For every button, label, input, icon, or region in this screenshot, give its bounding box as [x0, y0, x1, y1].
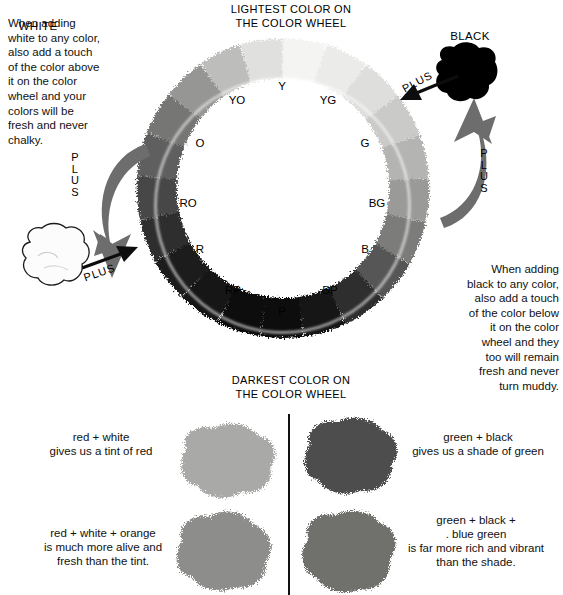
- hue-label-bg: BG: [369, 197, 386, 209]
- wheel-ring-wedges: [157, 59, 410, 318]
- hue-label-r: R: [196, 243, 204, 255]
- swatch-tint-red: [170, 418, 282, 504]
- caption-tint-red: red + white gives us a tint of red: [26, 430, 176, 458]
- hue-label-b: B: [361, 243, 369, 255]
- hue-label-rp: RP: [225, 284, 241, 296]
- black-mixing-note: When adding black to any color, also add…: [447, 262, 559, 393]
- swatch-shade-green: [296, 414, 406, 504]
- plus-label-right-vertical: P L U S: [478, 148, 490, 194]
- hue-label-y: Y: [278, 80, 286, 92]
- caption-shade-green: green + black gives us a shade of green: [398, 430, 558, 458]
- white-into-wheel-arrow: [80, 240, 160, 290]
- white-pigment-label: WHITE: [18, 20, 57, 32]
- hue-label-p: P: [278, 305, 286, 317]
- wheel-caption-lightest: LIGHTEST COLOR ON THE COLOR WHEEL: [196, 3, 386, 30]
- hue-label-yg: YG: [320, 94, 337, 106]
- hue-label-o: O: [196, 137, 205, 149]
- swatch-tint-red-plus-orange: [168, 505, 280, 595]
- hue-label-bp: BP: [322, 284, 337, 296]
- plus-label-left-vertical: P L U S: [69, 152, 81, 198]
- wheel-caption-darkest: DARKEST COLOR ON THE COLOR WHEEL: [196, 374, 386, 401]
- hue-label-ro: RO: [179, 197, 196, 209]
- black-into-wheel-arrow: [392, 60, 462, 110]
- black-pigment-label: BLACK: [450, 30, 490, 42]
- hue-label-yo: YO: [229, 94, 246, 106]
- caption-tint-red-plus-orange: red + white + orange is much more alive …: [18, 526, 188, 568]
- hue-label-g: G: [361, 137, 370, 149]
- swatch-shade-green-plus-blue-green: [296, 505, 406, 595]
- caption-shade-green-plus-blue-green: green + black + . blue green is far more…: [390, 513, 562, 569]
- black-direction-arrow: [408, 96, 508, 246]
- white-mixing-note: When adding white to any color, also add…: [8, 16, 126, 147]
